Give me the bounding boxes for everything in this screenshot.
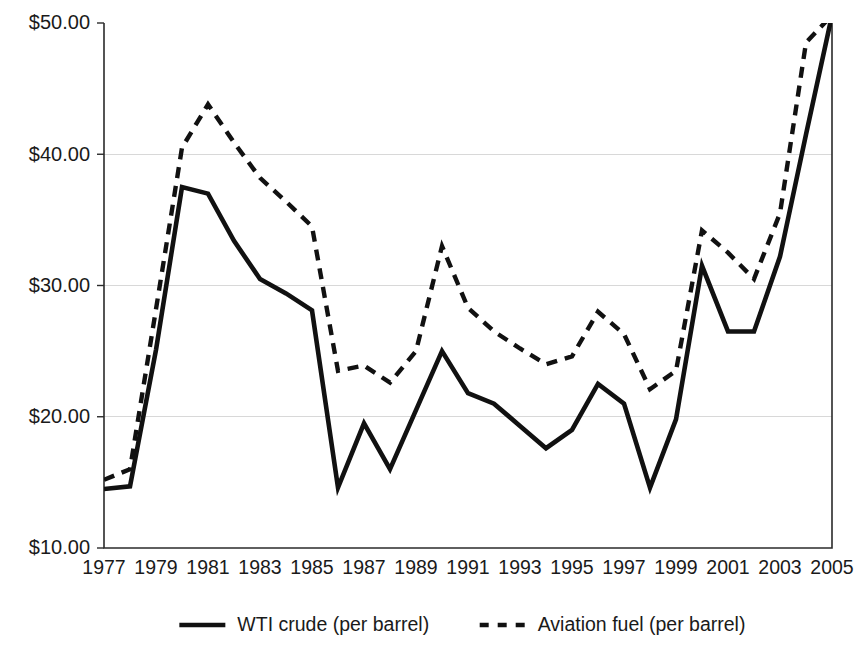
y-axis-tick-label: $40.00 <box>29 143 90 165</box>
x-axis-tick-label: 1983 <box>238 556 281 578</box>
chart-legend: WTI crude (per barrel)Aviation fuel (per… <box>179 613 745 635</box>
y-axis-tick-label: $50.00 <box>29 11 90 33</box>
x-axis-tick-label: 1999 <box>654 556 697 578</box>
x-axis-tick-label: 1993 <box>498 556 541 578</box>
y-axis-tick-label: $20.00 <box>29 405 90 427</box>
series-line-wti-crude <box>104 15 832 489</box>
x-axis-tick-label: 1981 <box>186 556 229 578</box>
y-axis-tick-label: $30.00 <box>29 274 90 296</box>
y-axis-tick-label: $10.00 <box>29 536 90 558</box>
x-axis-tick-label: 2003 <box>758 556 801 578</box>
x-axis-tick-label: 1977 <box>82 556 125 578</box>
price-chart-figure: $50.00$40.00$30.00$20.00$10.00 197719791… <box>0 0 867 666</box>
x-axis-tick-label: 1979 <box>134 556 177 578</box>
x-axis-tick-label: 1997 <box>602 556 645 578</box>
chart-canvas: $50.00$40.00$30.00$20.00$10.00 197719791… <box>0 0 867 666</box>
x-axis-tick-label: 1995 <box>550 556 594 578</box>
x-axis-tick-label: 1991 <box>446 556 489 578</box>
grid-lines <box>104 154 832 417</box>
legend-label-aviation-fuel: Aviation fuel (per barrel) <box>538 613 746 635</box>
x-axis-tick-label: 1987 <box>342 556 385 578</box>
data-series-group <box>104 15 832 489</box>
x-axis-tick-labels: 1977197919811983198519871989199119931995… <box>82 556 854 578</box>
x-axis-tick-label: 1985 <box>290 556 334 578</box>
y-axis-tick-labels: $50.00$40.00$30.00$20.00$10.00 <box>29 11 90 558</box>
y-axis-ticks <box>97 23 104 548</box>
series-line-aviation-fuel <box>104 15 832 480</box>
legend-label-wti-crude: WTI crude (per barrel) <box>237 613 429 635</box>
x-axis-tick-label: 2001 <box>706 556 749 578</box>
x-axis-tick-label: 2005 <box>810 556 854 578</box>
x-axis-tick-label: 1989 <box>394 556 437 578</box>
